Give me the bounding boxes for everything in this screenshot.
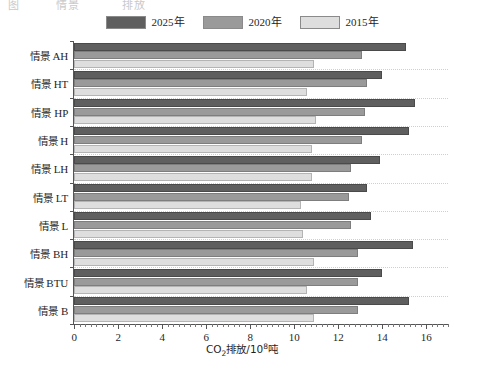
plot-area: 情景 AH情景 HT情景 HP情景 H情景 LH情景 LT情景 L情景 BH情景… [74,41,448,324]
x-axis-minor-tick [195,324,196,327]
y-axis-label-prefix: 情景 [33,191,53,203]
bar-L-2025[interactable] [74,212,371,220]
top-text-fragment-1: 图 [8,0,20,11]
x-axis-minor-tick [377,324,378,327]
legend-item[interactable]: 2025年 [106,16,185,29]
y-axis-label-code: L [59,219,68,231]
y-axis-label-HT: 情景 HT [31,76,68,91]
x-axis-minor-tick [316,324,317,327]
bar-LH-2025[interactable] [74,156,380,164]
x-axis-minor-tick [355,324,356,327]
x-axis-minor-tick [311,324,312,327]
x-axis-minor-tick [421,324,422,327]
legend-swatch [203,16,243,29]
legend-swatch [106,16,146,29]
y-axis-label-prefix: 情景 [38,135,58,147]
x-axis-minor-tick [432,324,433,327]
y-axis-label-prefix: 情景 [38,304,58,316]
y-axis-label-LT: 情景 LT [33,189,68,204]
y-axis-label-prefix: 情景 [31,163,51,175]
x-axis-minor-tick [85,324,86,327]
bar-HP-2020[interactable] [74,108,364,116]
bar-BTU-2020[interactable] [74,278,358,286]
x-axis-minor-tick [404,324,405,327]
bar-B-2020[interactable] [74,306,358,314]
x-axis-minor-tick [146,324,147,327]
y-axis-label-LH: 情景 LH [31,161,68,176]
x-axis-minor-tick [91,324,92,327]
x-axis-minor-tick [228,324,229,327]
x-axis-minor-tick [267,324,268,327]
x-axis-minor-tick [168,324,169,327]
y-axis-label-code: H [58,135,69,147]
y-axis-label-code: BH [50,248,68,260]
y-axis-label-code: BTU [44,276,69,288]
bar-B-2015[interactable] [74,314,314,322]
bar-AH-2015[interactable] [74,60,314,68]
bar-BH-2020[interactable] [74,249,358,257]
x-axis-major-tick [118,324,119,329]
x-axis-minor-tick [190,324,191,327]
x-axis-minor-tick [366,324,367,327]
y-axis-label-prefix: 情景 [30,248,50,260]
bar-LH-2020[interactable] [74,164,351,172]
bar-LT-2020[interactable] [74,193,349,201]
x-axis-major-tick [338,324,339,329]
x-axis-minor-tick [388,324,389,327]
bar-HP-2015[interactable] [74,116,316,124]
x-axis-minor-tick [371,324,372,327]
bar-L-2015[interactable] [74,230,303,238]
bar-B-2025[interactable] [74,297,408,305]
bar-HT-2015[interactable] [74,88,307,96]
y-axis-label-code: LT [53,191,68,203]
legend-item[interactable]: 2015年 [300,16,379,29]
y-axis-label-H: 情景 H [38,133,69,148]
bar-HT-2025[interactable] [74,71,382,79]
bar-H-2025[interactable] [74,127,408,135]
x-axis-minor-tick [272,324,273,327]
legend-label: 2025年 [152,17,185,28]
bar-H-2020[interactable] [74,136,362,144]
y-axis-label-prefix: 情景 [24,276,44,288]
x-axis-title-prefix: CO [206,343,222,355]
x-axis-major-tick [74,324,75,329]
x-axis-minor-tick [256,324,257,327]
bar-HT-2020[interactable] [74,79,367,87]
y-axis-label-code: LH [51,163,68,175]
legend-item[interactable]: 2020年 [203,16,282,29]
bar-HP-2025[interactable] [74,99,415,107]
x-axis-minor-tick [322,324,323,327]
top-text-fragment-2: 情景 [56,0,80,11]
bar-AH-2025[interactable] [74,43,406,51]
bar-L-2020[interactable] [74,221,351,229]
y-axis-label-code: AH [50,50,69,62]
bar-AH-2020[interactable] [74,51,362,59]
y-axis-label-prefix: 情景 [31,106,51,118]
bar-group [74,267,448,295]
bar-LT-2025[interactable] [74,184,367,192]
x-axis-major-tick [382,324,383,329]
x-axis-minor-tick [102,324,103,327]
y-axis-label-code: HP [51,106,68,118]
bar-BH-2025[interactable] [74,241,413,249]
bar-group [74,98,448,126]
y-axis-label-HP: 情景 HP [31,104,68,119]
y-axis-label-prefix: 情景 [30,50,50,62]
bar-BTU-2015[interactable] [74,286,307,294]
x-axis-minor-tick [327,324,328,327]
y-axis-label-prefix: 情景 [31,78,51,90]
x-axis-minor-tick [184,324,185,327]
bar-group [74,154,448,182]
bar-LT-2015[interactable] [74,201,301,209]
x-axis-minor-tick [217,324,218,327]
y-axis-label-code: B [58,304,68,316]
x-axis-minor-tick [278,324,279,327]
bar-BH-2015[interactable] [74,258,314,266]
bar-H-2015[interactable] [74,145,312,153]
x-axis-minor-tick [437,324,438,327]
x-axis-minor-tick [344,324,345,327]
x-axis-minor-tick [124,324,125,327]
bar-LH-2015[interactable] [74,173,312,181]
x-axis-title-mid: 排放/10 [226,343,263,355]
bar-BTU-2025[interactable] [74,269,382,277]
